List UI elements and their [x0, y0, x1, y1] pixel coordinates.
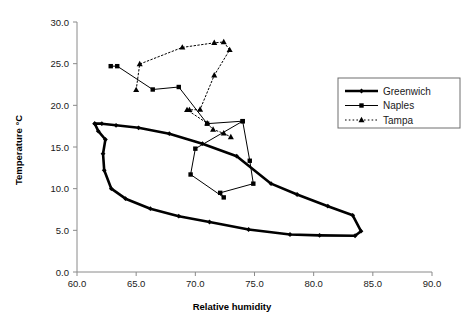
- data-point-square: [109, 64, 113, 68]
- x-axis: 60.065.070.075.080.085.090.0: [68, 272, 442, 289]
- y-tick-label: 25.0: [51, 58, 70, 69]
- legend-item-label: Naples: [383, 100, 414, 111]
- data-point-square: [177, 85, 181, 89]
- data-point-square: [151, 87, 155, 91]
- x-tick-label: 85.0: [364, 278, 383, 289]
- data-point-square: [240, 119, 244, 123]
- y-tick-label: 30.0: [51, 17, 70, 28]
- series-greenwich: [92, 121, 363, 238]
- data-point-triangle: [197, 106, 203, 111]
- series-tampa: [133, 39, 234, 139]
- data-point-square: [218, 191, 222, 195]
- series-naples: [109, 64, 256, 200]
- data-point-diamond: [207, 220, 212, 225]
- chart-container: 0.05.010.015.020.025.030.0 60.065.070.07…: [0, 0, 469, 326]
- x-tick-label: 90.0: [423, 278, 442, 289]
- y-tick-label: 5.0: [56, 225, 69, 236]
- data-point-triangle: [211, 72, 217, 77]
- data-point-triangle: [221, 39, 227, 44]
- chart-legend: GreenwichNaplesTampa: [338, 78, 460, 128]
- data-point-diamond: [136, 125, 141, 130]
- y-tick-label: 15.0: [51, 142, 70, 153]
- series-line-naples: [111, 66, 254, 197]
- x-tick-label: 80.0: [304, 278, 323, 289]
- x-tick-label: 75.0: [245, 278, 264, 289]
- data-point-triangle: [228, 134, 234, 139]
- data-point-triangle: [227, 47, 233, 52]
- data-point-diamond: [246, 227, 251, 232]
- legend-item-label: Greenwich: [383, 86, 431, 97]
- temperature-humidity-scatter-chart: 0.05.010.015.020.025.030.0 60.065.070.07…: [0, 0, 469, 326]
- data-point-square: [193, 146, 197, 150]
- series-line-greenwich: [95, 124, 361, 236]
- data-point-diamond: [317, 233, 322, 238]
- x-tick-label: 60.0: [68, 278, 87, 289]
- y-tick-label: 20.0: [51, 100, 70, 111]
- x-tick-label: 70.0: [186, 278, 205, 289]
- series-layer: [92, 39, 363, 238]
- data-point-diamond: [99, 121, 104, 126]
- y-axis-title: Temperature °C: [13, 115, 24, 185]
- data-point-square: [188, 172, 192, 176]
- y-axis: 0.05.010.015.020.025.030.0: [51, 17, 78, 278]
- data-point-square: [251, 181, 255, 185]
- legend-item-label: Tampa: [383, 115, 413, 126]
- data-point-square: [115, 64, 119, 68]
- data-point-triangle: [133, 87, 139, 92]
- data-point-diamond: [101, 151, 106, 156]
- data-point-diamond: [288, 232, 293, 237]
- data-point-square: [248, 159, 252, 163]
- x-tick-label: 65.0: [127, 278, 146, 289]
- x-axis-title: Relative humidity: [193, 301, 272, 312]
- y-tick-label: 10.0: [51, 183, 70, 194]
- data-point-diamond: [114, 123, 119, 128]
- data-point-square: [222, 195, 226, 199]
- y-tick-label: 0.0: [56, 267, 69, 278]
- data-point-square: [359, 103, 363, 107]
